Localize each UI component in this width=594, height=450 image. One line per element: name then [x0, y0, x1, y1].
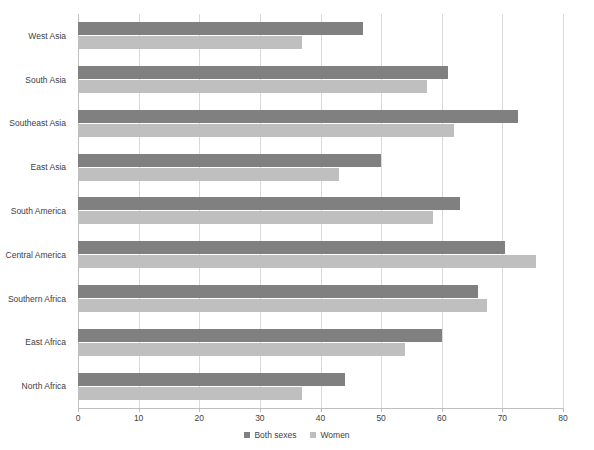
bar-group: [78, 364, 563, 408]
bar-both-sexes[interactable]: [78, 22, 363, 35]
x-tick-mark-30: [260, 408, 261, 412]
x-tick-mark-0: [78, 408, 79, 412]
bar-women[interactable]: [78, 343, 405, 356]
bar-group: [78, 102, 563, 146]
x-tick-label-30: 30: [255, 413, 264, 423]
bars-layer: [78, 14, 563, 408]
bar-chart: West AsiaSouth AsiaSoutheast AsiaEast As…: [0, 0, 594, 450]
category-axis-labels: West AsiaSouth AsiaSoutheast AsiaEast As…: [0, 14, 72, 408]
plot-area: [78, 14, 563, 408]
bar-women[interactable]: [78, 168, 339, 181]
bar-both-sexes[interactable]: [78, 241, 505, 254]
category-label-south-asia: South Asia: [25, 75, 66, 85]
legend-item-women[interactable]: Women: [310, 430, 349, 440]
x-tick-label-60: 60: [437, 413, 446, 423]
x-tick-label-40: 40: [316, 413, 325, 423]
bar-group: [78, 320, 563, 364]
legend-item-both-sexes[interactable]: Both sexes: [244, 430, 296, 440]
bar-women[interactable]: [78, 255, 536, 268]
bar-women[interactable]: [78, 80, 427, 93]
x-tick-mark-40: [321, 408, 322, 412]
gridline-80: [563, 14, 564, 408]
x-tick-label-50: 50: [376, 413, 385, 423]
bar-both-sexes[interactable]: [78, 285, 478, 298]
bar-both-sexes[interactable]: [78, 197, 460, 210]
x-tick-mark-70: [502, 408, 503, 412]
bar-women[interactable]: [78, 36, 302, 49]
category-label-central-america: Central America: [6, 250, 66, 260]
x-axis-ticks: 01020304050607080: [78, 408, 563, 426]
category-label-north-africa: North Africa: [22, 381, 66, 391]
x-tick-mark-10: [139, 408, 140, 412]
legend-label: Women: [320, 430, 349, 440]
x-tick-mark-50: [381, 408, 382, 412]
bar-group: [78, 58, 563, 102]
x-tick-label-10: 10: [134, 413, 143, 423]
bar-women[interactable]: [78, 124, 454, 137]
category-label-southern-africa: Southern Africa: [8, 294, 66, 304]
bar-women[interactable]: [78, 211, 433, 224]
bar-both-sexes[interactable]: [78, 154, 381, 167]
bar-group: [78, 233, 563, 277]
x-tick-label-80: 80: [558, 413, 567, 423]
x-tick-label-70: 70: [498, 413, 507, 423]
chart-title-remnant: [6, 0, 206, 6]
x-tick-label-20: 20: [195, 413, 204, 423]
bar-both-sexes[interactable]: [78, 66, 448, 79]
bar-group: [78, 277, 563, 321]
x-tick-label-0: 0: [76, 413, 81, 423]
bar-women[interactable]: [78, 299, 487, 312]
x-tick-mark-80: [563, 408, 564, 412]
chart-legend: Both sexesWomen: [0, 430, 594, 440]
category-label-southeast-asia: Southeast Asia: [9, 118, 66, 128]
x-tick-mark-20: [199, 408, 200, 412]
bar-both-sexes[interactable]: [78, 329, 442, 342]
legend-swatch-icon: [310, 432, 316, 438]
x-tick-mark-60: [442, 408, 443, 412]
category-label-west-asia: West Asia: [28, 31, 66, 41]
bar-women[interactable]: [78, 387, 302, 400]
bar-group: [78, 14, 563, 58]
bar-group: [78, 189, 563, 233]
legend-swatch-icon: [244, 432, 250, 438]
legend-label: Both sexes: [254, 430, 296, 440]
bar-both-sexes[interactable]: [78, 110, 518, 123]
bar-group: [78, 145, 563, 189]
category-label-east-asia: East Asia: [31, 162, 66, 172]
category-label-south-america: South America: [11, 206, 66, 216]
category-label-east-africa: East Africa: [25, 337, 66, 347]
bar-both-sexes[interactable]: [78, 373, 345, 386]
